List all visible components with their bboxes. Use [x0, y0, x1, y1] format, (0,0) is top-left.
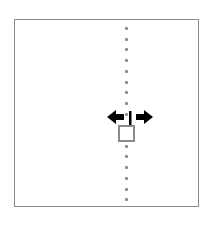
guide-dot	[125, 177, 128, 180]
guide-dot	[125, 155, 128, 158]
guide-dot	[125, 91, 128, 94]
guide-dot	[125, 81, 128, 84]
guide-dot	[125, 188, 128, 191]
guide-dot	[125, 102, 128, 105]
guide-dot	[125, 198, 128, 201]
resize-horizontal-cursor-icon	[105, 108, 155, 144]
guide-dot	[125, 48, 128, 51]
guide-dot	[125, 166, 128, 169]
guide-dot	[125, 145, 128, 148]
guide-dot	[125, 38, 128, 41]
guide-dot	[125, 70, 128, 73]
guide-dot	[125, 59, 128, 62]
guide-dot	[125, 27, 128, 30]
